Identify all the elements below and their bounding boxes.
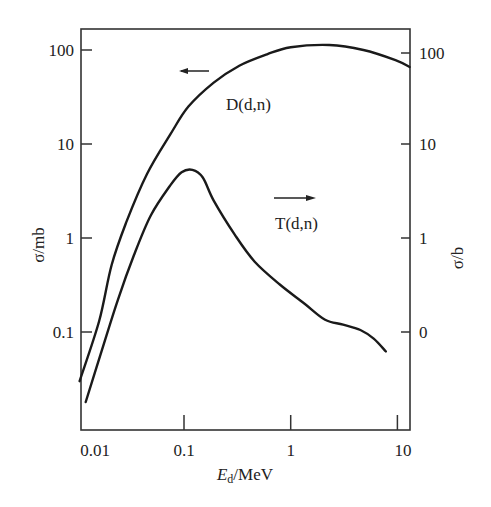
x-axis-title-var: E [216,465,228,484]
y-axis-title-left: σ/mb [29,227,48,263]
y-right-tick-label: 1 [419,229,428,248]
y-axis-left: 0.1110100 [49,41,93,342]
y-left-tick-label: 100 [49,41,75,60]
cross-section-chart: 0.010.1110 0.1110100 0110100 D(d,n) T(d,… [0,0,491,507]
x-tick-label: 10 [395,441,412,460]
x-axis-title-unit: /MeV [233,465,273,484]
y-axis-title-right: σ/b [448,247,467,269]
y-left-tick-label: 0.1 [53,323,74,342]
series-t-d-n-line [86,170,386,402]
y-right-tick-label: 10 [419,135,436,154]
x-tick-label: 1 [286,441,295,460]
arrow-right-icon [274,195,316,201]
y-right-tick-label: 100 [419,44,445,63]
arrow-left-icon [179,68,209,74]
y-axis-right: 0110100 [401,44,445,342]
x-tick-label: 0.1 [173,441,194,460]
y-left-tick-label: 1 [66,229,75,248]
x-axis: 0.010.1110 [80,415,411,460]
plot-frame [81,29,410,430]
label-d-d-n: D(d,n) [226,95,271,114]
y-left-tick-label: 10 [57,135,74,154]
label-t-d-n: T(d,n) [275,214,318,233]
x-tick-label: 0.01 [80,441,110,460]
y-right-tick-label: 0 [419,323,428,342]
x-axis-title: Ed/MeV [216,465,274,486]
